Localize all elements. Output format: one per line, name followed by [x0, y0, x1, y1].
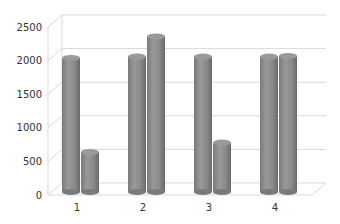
- bar-chart: 05001000150020002500 1234: [0, 0, 340, 224]
- y-tick-label: 1000: [17, 122, 42, 133]
- x-tick-label: 3: [206, 202, 212, 213]
- bars: [62, 33, 297, 195]
- bar: [147, 33, 165, 195]
- bar: [260, 54, 278, 195]
- y-tick-label: 2500: [17, 22, 42, 33]
- y-tick-label: 500: [23, 156, 42, 167]
- bar: [213, 140, 231, 195]
- y-tick-label: 1500: [17, 89, 42, 100]
- y-tick-label: 2000: [17, 55, 42, 66]
- y-axis: 05001000150020002500: [17, 22, 48, 201]
- bar: [62, 55, 80, 195]
- y-tick-label: 0: [36, 190, 42, 201]
- x-tick-label: 2: [140, 202, 146, 213]
- bar: [81, 149, 99, 195]
- x-tick-label: 1: [74, 202, 80, 213]
- x-tick-label: 4: [272, 202, 278, 213]
- bar: [279, 53, 297, 195]
- bar: [128, 54, 146, 195]
- bar: [194, 54, 212, 195]
- x-axis: 1234: [74, 202, 278, 213]
